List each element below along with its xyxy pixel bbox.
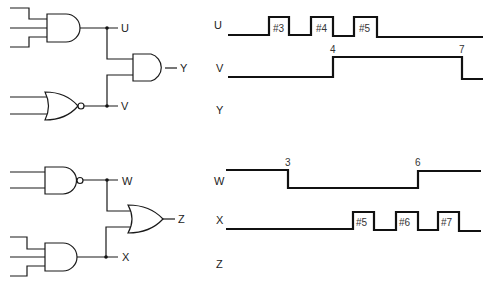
- bottom-circuit: W X Z: [10, 167, 185, 276]
- top-circuit: U V Y: [10, 8, 188, 120]
- pulse-label: #5: [359, 23, 371, 34]
- edge-label: 7: [459, 44, 465, 55]
- pulse-label: #6: [399, 217, 411, 228]
- bottom-waveforms: W 3 6 X #5 #6 #7 Z: [214, 157, 481, 270]
- wave-y-label: Y: [216, 104, 224, 116]
- nor-bubble: [78, 103, 84, 109]
- nand-bubble: [77, 178, 83, 184]
- wave-x-label: X: [216, 214, 224, 226]
- top-waveforms: U #3 #4 #5 V 4 7 Y: [214, 17, 483, 116]
- edge-label: 3: [285, 157, 291, 168]
- wave-u-label: U: [214, 19, 222, 31]
- nand-gate: [45, 167, 77, 194]
- wave-v: [228, 57, 483, 79]
- wave-u: [228, 17, 483, 37]
- pulse-label: #7: [441, 217, 453, 228]
- v-label: V: [121, 100, 129, 112]
- w-label: W: [122, 175, 133, 187]
- and-gate-2: [133, 54, 161, 81]
- u-label: U: [121, 22, 129, 34]
- logic-diagram: U V Y W: [0, 0, 493, 285]
- edge-label: 6: [415, 157, 421, 168]
- or-gate: [128, 205, 163, 233]
- wave-z-label: Z: [216, 258, 223, 270]
- x-label: X: [122, 251, 130, 263]
- nor-gate: [45, 92, 78, 120]
- wave-v-label: V: [216, 62, 224, 74]
- v-to-and2: [107, 75, 133, 106]
- and3-input-a: [10, 237, 45, 249]
- and3-input-c: [10, 266, 45, 276]
- and1-input-a: [10, 8, 47, 19]
- wave-w: [226, 170, 481, 188]
- and-gate-3: [45, 243, 77, 271]
- edge-label: 4: [330, 44, 336, 55]
- pulse-label: #3: [273, 23, 285, 34]
- pulse-label: #4: [316, 23, 328, 34]
- z-label: Z: [178, 213, 185, 225]
- u-to-and2: [107, 28, 133, 59]
- wave-w-label: W: [214, 175, 225, 187]
- and1-input-c: [10, 37, 47, 47]
- and-gate-1: [47, 14, 80, 42]
- y-label: Y: [180, 62, 188, 74]
- pulse-label: #5: [356, 217, 368, 228]
